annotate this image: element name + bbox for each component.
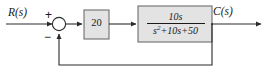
gain-block-label: 20: [84, 18, 109, 29]
transfer-function-numerator: 10s: [169, 12, 183, 23]
block-diagram-canvas: R(s) C(s) + − 20 10s s2+10s+50: [0, 0, 271, 76]
summing-junction-plus-sign: +: [45, 9, 52, 21]
transfer-function-expression: 10s s2+10s+50: [139, 8, 212, 40]
transfer-function-denominator: s2+10s+50: [153, 24, 198, 36]
output-signal-label: C(s): [213, 6, 233, 18]
summing-junction-circle: [52, 17, 65, 30]
summing-junction-minus-sign: −: [44, 31, 51, 43]
denominator-rest: +10s+50: [161, 25, 198, 36]
input-signal-label: R(s): [8, 7, 27, 19]
